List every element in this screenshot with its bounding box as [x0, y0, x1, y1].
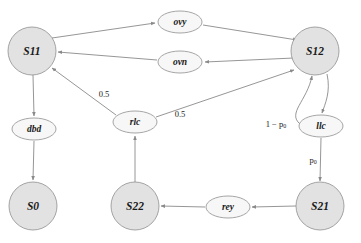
state-s21-label: S21: [311, 200, 329, 212]
edge-weight-one-minus-p0: 1 − p0: [266, 119, 287, 130]
edge-weight-one-minus-p0-main: 1 − p: [266, 119, 284, 129]
edge-ovy-to-s12: [203, 25, 297, 40]
edge-llc-to-s21: [320, 138, 321, 181]
transition-ovy[interactable]: ovy: [158, 11, 202, 33]
transition-llc-label: llc: [316, 121, 326, 131]
edge-weight-one-minus-p0-sub: 0: [283, 124, 286, 130]
transition-llc[interactable]: llc: [299, 115, 343, 137]
transition-dbd-label: dbd: [27, 124, 42, 134]
edge-s11-to-dbd: [33, 75, 34, 116]
state-s12[interactable]: S12: [291, 27, 339, 75]
state-s22-label: S22: [126, 200, 144, 212]
state-s12-label: S12: [306, 45, 324, 57]
edge-s11-to-ovy: [52, 23, 155, 38]
edge-s21-to-rey: [252, 206, 296, 207]
state-s0-label: S0: [27, 200, 39, 212]
transition-ovn[interactable]: ovn: [158, 51, 202, 73]
state-diagram-svg: ovy ovn dbd rlc llc rey: [0, 0, 361, 243]
edge-weight-rlc-s11: 0.5: [99, 89, 110, 99]
edge-weight-p0-sub: 0: [314, 160, 317, 166]
edge-ovn-to-s11: [58, 52, 157, 60]
state-s22[interactable]: S22: [111, 182, 159, 230]
state-s0[interactable]: S0: [9, 182, 57, 230]
transition-rlc-label: rlc: [130, 117, 141, 127]
transition-ovn-label: ovn: [173, 57, 187, 67]
transition-rey-label: rey: [222, 202, 235, 212]
edge-weight-rlc-s12: 0.5: [175, 109, 186, 119]
edge-dbd-to-s0: [33, 141, 34, 180]
edge-weight-p0: p0: [309, 155, 316, 166]
edge-rey-to-s22: [161, 206, 205, 207]
edge-s12-to-ovn: [205, 58, 294, 62]
state-s11[interactable]: S11: [8, 27, 56, 75]
state-diagram-canvas: ovy ovn dbd rlc llc rey: [0, 0, 361, 243]
transition-rlc[interactable]: rlc: [113, 111, 157, 133]
transition-dbd[interactable]: dbd: [12, 118, 56, 140]
transition-rey[interactable]: rey: [206, 196, 250, 218]
transition-ovy-label: ovy: [173, 17, 187, 27]
edge-s12-to-llc: [322, 74, 328, 113]
state-s11-label: S11: [23, 45, 40, 57]
state-s21[interactable]: S21: [296, 182, 344, 230]
